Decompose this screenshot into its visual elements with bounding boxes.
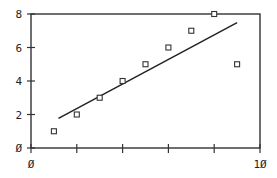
data-point <box>212 12 217 17</box>
x-tick-label: Ø <box>28 158 35 171</box>
data-point <box>97 95 102 100</box>
data-point <box>143 62 148 67</box>
data-point <box>189 28 194 33</box>
y-tick-label: 8 <box>15 8 22 21</box>
data-point <box>120 79 125 84</box>
y-tick-label: 4 <box>15 75 22 88</box>
x-tick-label: 1Ø <box>253 158 267 171</box>
y-axis: Ø2468 <box>15 8 35 155</box>
data-point <box>166 45 171 50</box>
data-points <box>51 12 239 134</box>
regression-line <box>58 23 237 119</box>
y-tick-label: 6 <box>15 42 22 55</box>
y-tick-label: Ø <box>15 142 22 155</box>
plot-border <box>31 14 260 148</box>
data-point <box>51 129 56 134</box>
scatter-chart: Ø2468 Ø1Ø <box>0 0 277 178</box>
data-point <box>235 62 240 67</box>
plot-frame <box>31 14 260 148</box>
y-tick-label: 2 <box>15 109 22 122</box>
data-point <box>74 112 79 117</box>
fit-line <box>58 23 237 119</box>
